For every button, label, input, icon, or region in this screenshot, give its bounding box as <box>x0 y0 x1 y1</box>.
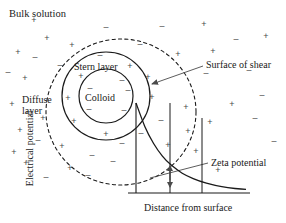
label-stern-layer: Stern layer <box>74 62 118 73</box>
axis-label-distance-from-surface: Distance from surface <box>144 203 232 214</box>
diffuse-layer-boundary-circle <box>46 39 196 185</box>
electrical-potential-decay-curve <box>136 103 246 189</box>
label-zeta-potential: Zeta potential <box>211 158 266 169</box>
label-surface-of-shear: Surface of shear <box>206 60 271 71</box>
surface-of-shear-leader-line <box>152 66 203 84</box>
electrical-double-layer-figure: +––+++––++––++–+–++–+––––++–+––++++–+–++… <box>0 0 286 223</box>
label-colloid: Colloid <box>85 93 115 104</box>
label-bulk-solution: Bulk solution <box>9 8 66 19</box>
label-diffuse-layer-line1: Diffuse <box>22 95 52 106</box>
axis-label-electrical-potential: Electrical potential <box>25 105 36 191</box>
